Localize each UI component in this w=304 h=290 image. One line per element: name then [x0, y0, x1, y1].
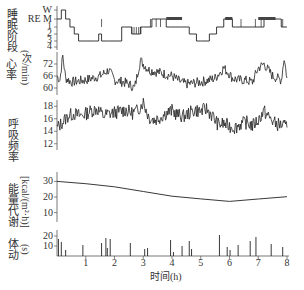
rem-block — [258, 17, 275, 20]
resp-tick-label: 18 — [43, 100, 53, 111]
x-tick-label: 1 — [83, 257, 88, 268]
rem-block — [225, 17, 232, 20]
x-tick-label: 6 — [227, 257, 232, 268]
x-tick-label: 5 — [198, 257, 203, 268]
rem-block — [166, 17, 182, 20]
respiration-trace — [57, 98, 287, 134]
resp-tick-label: 16 — [43, 113, 53, 124]
hr-tick-label: 60 — [43, 82, 53, 93]
hr-tick-label: 66 — [43, 70, 53, 81]
hr-tick-label: 72 — [43, 58, 53, 69]
x-tick-label: 2 — [112, 257, 117, 268]
x-tick-label: 8 — [285, 257, 290, 268]
x-tick-label: 7 — [256, 257, 261, 268]
energy-tick-label: 30 — [43, 175, 53, 186]
energy-tick-label: 10 — [43, 207, 53, 218]
resp-tick-label: 12 — [43, 138, 53, 149]
x-tick-label: 4 — [170, 257, 175, 268]
energy-tick-label: 20 — [43, 191, 53, 202]
sleep-tick-label: 4 — [47, 40, 52, 51]
heart-rate-trace — [57, 55, 287, 91]
energy-trace — [57, 181, 287, 201]
resp-tick-label: 14 — [43, 125, 53, 136]
move-tick-label: 10 — [43, 240, 53, 251]
x-tick-label: 3 — [141, 257, 146, 268]
move-tick-label: 20 — [43, 230, 53, 241]
sleep-physiology-chart: WRE M12346066721214161810203010201234567… — [0, 0, 304, 290]
sleep-stage-trace — [57, 10, 287, 41]
